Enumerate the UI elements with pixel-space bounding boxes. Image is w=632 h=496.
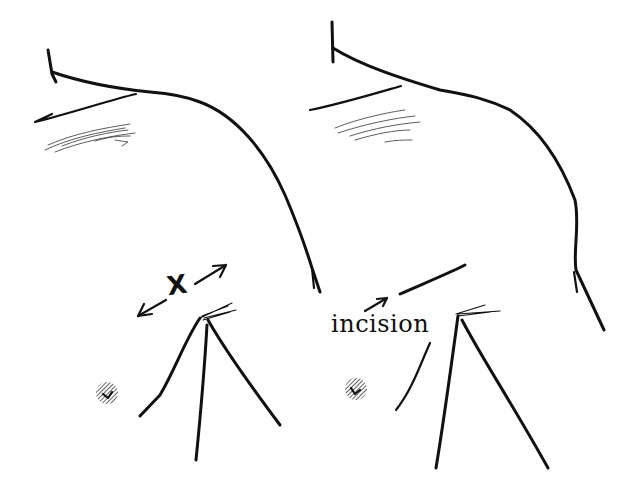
- incision-label: incision: [331, 310, 429, 338]
- nipple-right: [345, 378, 367, 400]
- illustration: X incision: [0, 0, 632, 496]
- shoulder-outline-right: [333, 48, 604, 330]
- clavicle-left: [35, 94, 136, 122]
- neck-line-right: [332, 22, 333, 62]
- line-drawing: [0, 0, 632, 496]
- left-panel: [35, 50, 320, 460]
- arm-inner-left: [196, 325, 207, 460]
- clavicle-right: [310, 86, 401, 110]
- arm-back-right: [462, 320, 548, 468]
- hatching-left: [45, 124, 135, 152]
- arm-front-right: [396, 343, 430, 410]
- right-panel: [310, 22, 604, 468]
- arm-inner-right: [436, 316, 458, 468]
- shoulder-tail-right: [574, 272, 577, 292]
- axilla-hair-left: [200, 303, 236, 320]
- arm-back-left: [208, 320, 280, 425]
- measure-label-x: X: [165, 269, 189, 301]
- arm-front-left: [140, 318, 200, 416]
- nipple-left: [96, 382, 118, 404]
- incision-line: [400, 265, 465, 294]
- hatching-right: [335, 110, 420, 142]
- neck-line-left: [48, 50, 56, 82]
- axilla-hair-right: [456, 305, 500, 316]
